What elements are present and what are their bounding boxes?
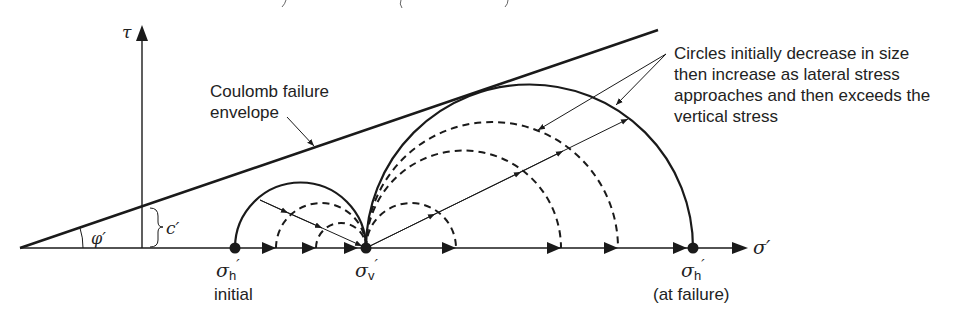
axis-arrowhead-icon (547, 242, 561, 254)
svg-text:σv′: σv′ (355, 256, 378, 283)
cohesion-brace (150, 208, 163, 247)
sigma-h-failure-dot (688, 243, 699, 254)
axis-arrowhead-icon (442, 242, 456, 254)
svg-text:initial: initial (214, 285, 253, 304)
mohr-circle-initial (235, 183, 366, 249)
envelope-label-line1: Coulomb failure (210, 82, 329, 101)
friction-angle-label: φ′ (91, 229, 106, 248)
radial-arrow-increasing-mid-c (521, 151, 563, 172)
axis-arrowhead-icon (302, 242, 316, 254)
tau-axis-arrowhead-icon (136, 25, 148, 41)
friction-angle-arc (80, 228, 83, 248)
sigma-axis-arrowhead-icon (732, 242, 748, 254)
axis-arrowhead-icon (673, 242, 687, 254)
radial-arrow-decreasing-mid-a (260, 200, 288, 213)
sigma-v-label: σv′ (355, 256, 378, 283)
radial-arrow-increasing-mid-b (435, 172, 521, 214)
radial-arrow-decreasing-mid-b (288, 213, 322, 228)
circle-behaviour-annotation: Circles initially decrease in size then … (674, 44, 930, 126)
sigma-v-dot (361, 243, 372, 254)
cropped-equation-remnants (282, 0, 508, 8)
svg-text:σh′: σh′ (681, 256, 705, 283)
svg-text:vertical stress: vertical stress (674, 107, 778, 126)
sigma-h-initial-label: σh′ initial (214, 256, 253, 304)
svg-text:(at failure): (at failure) (653, 285, 730, 304)
tau-axis-label: τ (122, 22, 132, 42)
sigma-h-initial-dot (230, 243, 241, 254)
axis-arrowhead-icon (262, 242, 276, 254)
envelope-leader-arrow (287, 117, 314, 146)
svg-text:then increase as lateral stres: then increase as lateral stress (674, 65, 900, 84)
axis-arrowhead-icon (344, 242, 358, 254)
svg-text:approaches and then exceeds th: approaches and then exceeds the (674, 86, 930, 105)
svg-text:Circles initially decrease in: Circles initially decrease in size (674, 44, 909, 63)
axis-arrowhead-icon (604, 242, 618, 254)
envelope-label-line2: envelope (210, 103, 279, 122)
coulomb-failure-envelope (20, 30, 658, 248)
cohesion-label: c′ (166, 218, 180, 238)
svg-text:σh′: σh′ (216, 256, 240, 283)
sigma-axis-label: σ′ (753, 236, 771, 258)
radial-arrow-increasing-mid-a (370, 214, 435, 246)
mohr-circle-diagram: σ′ τ φ′ c′ Coulomb failure envelope (0, 0, 962, 317)
sigma-h-failure-label: σh′ (at failure) (653, 256, 730, 304)
